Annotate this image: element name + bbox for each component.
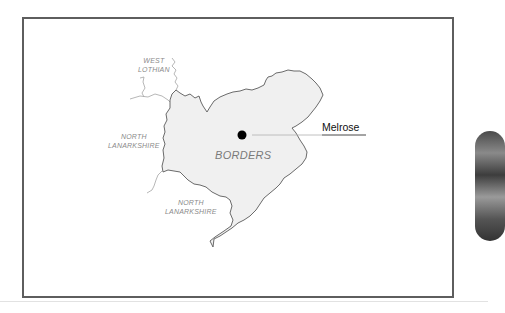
melrose-marker <box>238 131 247 140</box>
label-west-lothian: WESTLOTHIAN <box>138 56 170 74</box>
label-north-lanarkshire-south: NORTHLANARKSHIRE <box>165 198 217 216</box>
label-melrose: Melrose <box>322 121 359 133</box>
label-borders: BORDERS <box>215 149 272 161</box>
label-north-lanarkshire-west: NORTHLANARKSHIRE <box>108 132 160 150</box>
